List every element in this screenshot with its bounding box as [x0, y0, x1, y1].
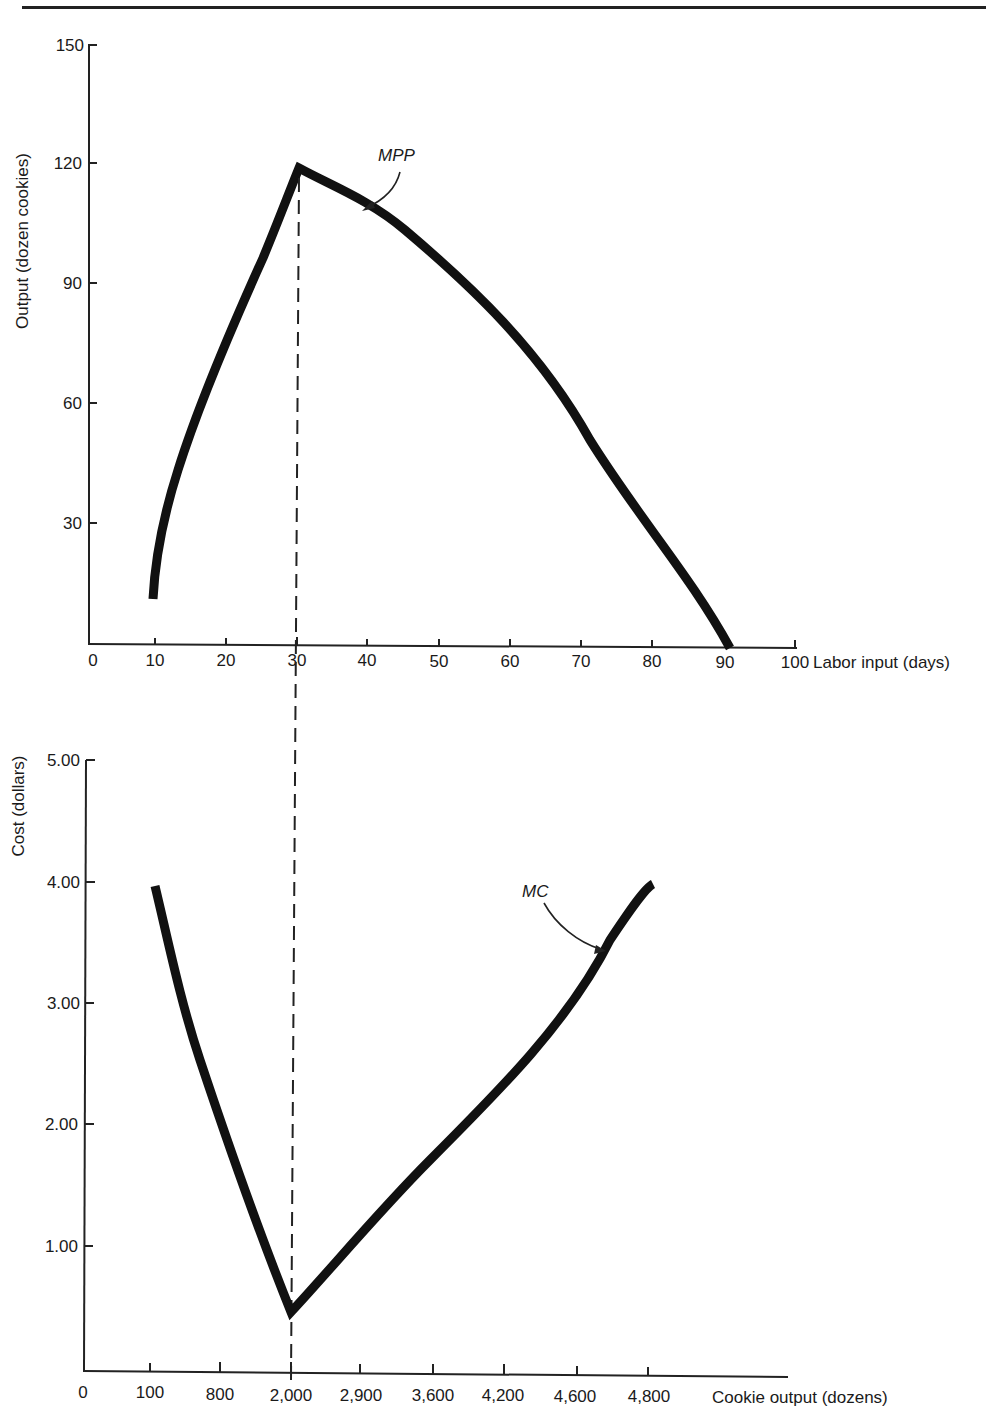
top-x-origin-label: 0	[88, 651, 97, 670]
bottom-y-tick-label: 4.00	[47, 873, 80, 892]
bottom-x-tick-label: 4,600	[554, 1387, 597, 1406]
top-x-tick-label: 100	[781, 653, 809, 672]
top-y-tick-label: 90	[63, 274, 82, 293]
bottom-y-axis	[84, 760, 86, 1372]
bottom-x-tick-label: 2,000	[270, 1386, 313, 1405]
bottom-y-tick-label: 5.00	[47, 751, 80, 770]
bottom-x-axis-title: Cookie output (dozens)	[712, 1388, 888, 1407]
top-x-tick-label: 60	[501, 652, 520, 671]
bottom-x-tick-label: 800	[206, 1385, 234, 1404]
top-x-tick-label: 30	[288, 651, 307, 670]
top-x-tick-label: 20	[217, 651, 236, 670]
bottom-x-axis	[84, 1371, 788, 1377]
bottom-y-tick-label: 1.00	[45, 1237, 78, 1256]
top-y-tick-label: 150	[56, 36, 84, 55]
top-x-tick-label: 50	[430, 652, 449, 671]
bottom-y-tick-label: 3.00	[47, 994, 80, 1013]
top-x-tick-label: 70	[572, 652, 591, 671]
dashed-reference-line	[291, 178, 299, 1380]
mc-curve	[155, 884, 653, 1312]
mpp-curve	[153, 168, 730, 648]
bottom-x-tick-label: 100	[136, 1383, 164, 1402]
bottom-y-tick-label: 2.00	[45, 1115, 78, 1134]
bottom-chart: 5.00 4.00 3.00 2.00 1.00 Cost (dollars) …	[9, 751, 888, 1407]
top-x-tick-label: 10	[146, 651, 165, 670]
mpp-curve-label: MPP	[378, 146, 416, 165]
top-x-axis-title: Labor input (days)	[813, 653, 950, 672]
mc-curve-label: MC	[522, 882, 549, 901]
top-y-tick-label: 120	[54, 154, 82, 173]
figure-canvas: 150 120 90 60 30 Output (dozen cookies) …	[0, 0, 986, 1427]
bottom-x-origin-label: 0	[78, 1383, 87, 1402]
bottom-x-tick-label: 2,900	[340, 1386, 383, 1405]
bottom-x-tick-label: 3,600	[412, 1386, 455, 1405]
top-x-tick-label: 90	[716, 653, 735, 672]
mc-arrow	[544, 903, 600, 949]
bottom-y-axis-title: Cost (dollars)	[9, 755, 28, 856]
bottom-x-tick-label: 4,200	[482, 1386, 525, 1405]
top-x-tick-label: 80	[643, 652, 662, 671]
top-x-tick-label: 40	[358, 651, 377, 670]
top-y-axis-title: Output (dozen cookies)	[13, 153, 32, 329]
bottom-x-tick-label: 4,800	[628, 1387, 671, 1406]
top-y-ticks	[89, 45, 97, 523]
top-x-axis	[88, 644, 797, 648]
top-y-tick-label: 60	[63, 394, 82, 413]
top-y-tick-label: 30	[63, 514, 82, 533]
top-chart: 150 120 90 60 30 Output (dozen cookies) …	[13, 36, 950, 672]
